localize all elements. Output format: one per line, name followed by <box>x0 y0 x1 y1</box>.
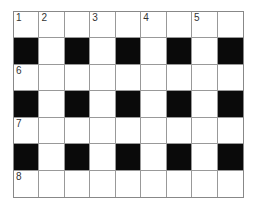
crossword-cell[interactable] <box>39 65 64 91</box>
crossword-cell[interactable] <box>116 118 141 144</box>
crossword-cell[interactable] <box>141 144 166 170</box>
black-cell <box>218 144 243 170</box>
crossword-cell[interactable]: 1 <box>14 12 39 38</box>
black-cell <box>65 91 90 117</box>
crossword-cell[interactable] <box>90 38 115 64</box>
crossword-cell[interactable] <box>90 171 115 197</box>
crossword-cell[interactable] <box>167 12 192 38</box>
crossword-cell[interactable] <box>192 171 217 197</box>
crossword-cell[interactable] <box>90 65 115 91</box>
crossword-cell[interactable] <box>65 171 90 197</box>
crossword-cell[interactable] <box>167 65 192 91</box>
crossword-cell[interactable]: 8 <box>14 171 39 197</box>
clue-number: 3 <box>92 13 98 23</box>
black-cell <box>65 38 90 64</box>
black-cell <box>14 144 39 170</box>
crossword-cell[interactable] <box>141 118 166 144</box>
crossword-cell[interactable] <box>39 91 64 117</box>
crossword-cell[interactable] <box>218 118 243 144</box>
black-cell <box>218 38 243 64</box>
black-cell <box>116 38 141 64</box>
black-cell <box>167 144 192 170</box>
crossword-cell[interactable] <box>192 91 217 117</box>
crossword-cell[interactable] <box>39 38 64 64</box>
crossword-cell[interactable] <box>39 144 64 170</box>
crossword-cell[interactable] <box>90 91 115 117</box>
black-cell <box>14 38 39 64</box>
crossword-cell[interactable] <box>218 65 243 91</box>
crossword-cell[interactable] <box>116 171 141 197</box>
clue-number: 8 <box>16 172 22 182</box>
crossword-cell[interactable] <box>141 65 166 91</box>
black-cell <box>116 91 141 117</box>
crossword-cell[interactable]: 3 <box>90 12 115 38</box>
crossword-cell[interactable] <box>65 65 90 91</box>
crossword-cell[interactable] <box>141 171 166 197</box>
black-cell <box>65 144 90 170</box>
crossword-grid: 12345678 <box>13 11 244 198</box>
crossword-cell[interactable] <box>90 118 115 144</box>
crossword-cell[interactable]: 2 <box>39 12 64 38</box>
crossword-cell[interactable]: 7 <box>14 118 39 144</box>
crossword-cell[interactable] <box>90 144 115 170</box>
crossword-cell[interactable] <box>167 118 192 144</box>
crossword-cell[interactable] <box>116 65 141 91</box>
crossword-cell[interactable] <box>141 38 166 64</box>
crossword-cell[interactable]: 4 <box>141 12 166 38</box>
clue-number: 6 <box>16 66 22 76</box>
crossword-cell[interactable] <box>192 144 217 170</box>
black-cell <box>116 144 141 170</box>
black-cell <box>14 91 39 117</box>
clue-number: 5 <box>194 13 200 23</box>
clue-number: 7 <box>16 119 22 129</box>
crossword-cell[interactable]: 5 <box>192 12 217 38</box>
crossword-cell[interactable] <box>192 65 217 91</box>
crossword-cell[interactable] <box>192 118 217 144</box>
crossword-cell[interactable] <box>116 12 141 38</box>
crossword-cell[interactable] <box>218 12 243 38</box>
crossword-cell[interactable] <box>192 38 217 64</box>
clue-number: 4 <box>143 13 149 23</box>
crossword-cell[interactable] <box>141 91 166 117</box>
black-cell <box>167 91 192 117</box>
black-cell <box>167 38 192 64</box>
clue-number: 2 <box>41 13 47 23</box>
crossword-cell[interactable] <box>167 171 192 197</box>
crossword-cell[interactable] <box>218 171 243 197</box>
crossword-cell[interactable] <box>65 118 90 144</box>
crossword-cell[interactable]: 6 <box>14 65 39 91</box>
black-cell <box>218 91 243 117</box>
clue-number: 1 <box>16 13 22 23</box>
crossword-cell[interactable] <box>39 118 64 144</box>
crossword-cell[interactable] <box>39 171 64 197</box>
crossword-cell[interactable] <box>65 12 90 38</box>
